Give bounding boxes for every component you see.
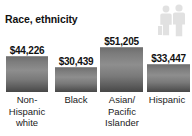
category-labels: Non- Hispanic white Black Asian/ Pacific… [0,92,192,136]
bar-black [55,67,97,92]
bar-value-black: $30,439 [59,56,94,67]
bar-group-non-hispanic-white: $44,226 [6,57,48,92]
bar-group-black: $30,439 [55,68,97,92]
bar-group-asian-pacific-islander: $51,205 [100,48,143,92]
category-label-non-hispanic-white: Non- Hispanic white [2,94,52,129]
plot-area: $44,226 $30,439 $51,205 $33,447 [0,0,192,92]
bar-group-hispanic: $33,447 [147,65,190,92]
bar-value-asian-pacific-islander: $51,205 [104,36,139,47]
category-label-asian-pacific-islander: Asian/ Pacific Islander [97,94,147,129]
category-label-hispanic: Hispanic [142,94,192,106]
race-ethnicity-bar-chart: Race, ethnicity $44,226 $30,439 $51,205 [0,0,192,136]
bar-value-non-hispanic-white: $44,226 [10,45,45,56]
bar-non-hispanic-white [6,56,48,92]
bar-value-hispanic: $33,447 [151,53,186,64]
bar-hispanic [147,64,190,92]
category-label-black: Black [51,94,101,106]
bar-asian-pacific-islander [100,47,143,92]
